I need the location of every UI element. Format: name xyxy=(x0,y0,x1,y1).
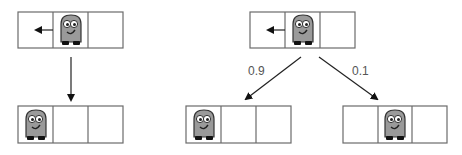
grid-top-left xyxy=(18,12,123,48)
robot-icon xyxy=(385,110,405,140)
grid-bottom-left xyxy=(18,106,123,143)
robot-icon xyxy=(61,15,81,45)
probability-label-left: 0.9 xyxy=(248,64,265,78)
grid-bottom-middle xyxy=(186,106,291,143)
probability-label-right: 0.1 xyxy=(352,64,369,78)
grid-top-right xyxy=(250,12,355,48)
transition-diagram: 0.9 0.1 xyxy=(0,0,462,155)
robot-icon xyxy=(293,15,313,45)
robot-icon xyxy=(26,110,46,140)
robot-icon xyxy=(194,110,214,140)
grid-bottom-right xyxy=(343,106,447,143)
